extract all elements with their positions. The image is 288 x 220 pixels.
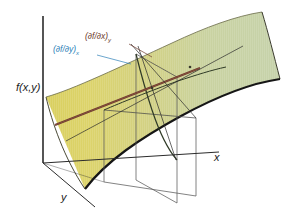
y-axis-label: y: [61, 192, 67, 203]
f-axis-label: f(x,y): [16, 82, 40, 93]
f-surface: [46, 12, 280, 189]
annotation-dfdx: (∂f/∂x)y: [85, 32, 111, 43]
figure-canvas: [0, 0, 288, 220]
annotation-dfdy-text: (∂f/∂y): [53, 44, 76, 54]
annotation-dfdx-text: (∂f/∂x): [85, 31, 108, 41]
partial-derivative-figure: f(x,y) x y (∂f/∂x)y (∂f/∂y)x: [0, 0, 288, 220]
annotation-dfdy: (∂f/∂y)x: [53, 45, 79, 56]
leader-dfdy: [97, 55, 131, 64]
x-axis-line: [43, 152, 219, 163]
annotation-dfdx-subscript: y: [108, 37, 111, 43]
x-axis-label: x: [214, 152, 220, 163]
annotation-dfdy-subscript: x: [76, 50, 79, 56]
